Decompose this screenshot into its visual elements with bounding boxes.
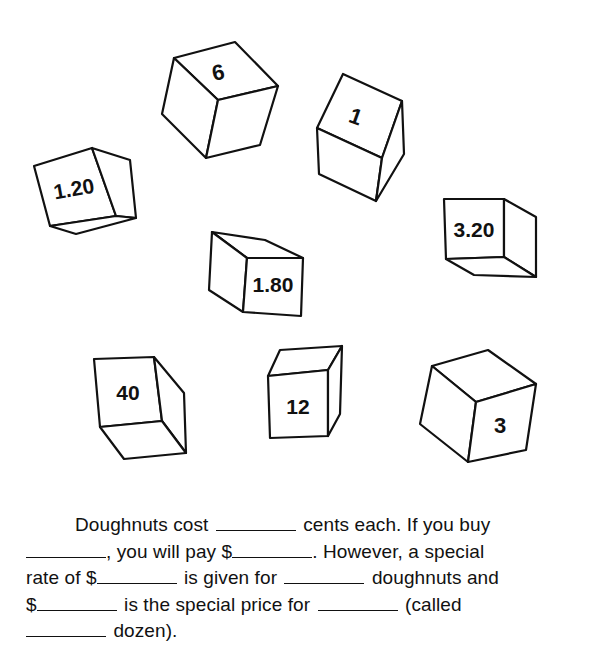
number-cube-1-80: 1.80 xyxy=(205,228,309,318)
text: $ xyxy=(26,594,37,615)
blank-price-each[interactable] xyxy=(216,512,296,531)
number-cube-40: 40 xyxy=(92,355,190,461)
paragraph-line-2: , you will pay $. However, a special xyxy=(26,539,566,566)
text: doughnuts and xyxy=(372,567,499,588)
number-cube-1-20: 1.20 xyxy=(30,146,142,238)
text: , you will pay $ xyxy=(106,541,232,562)
worksheet-paragraph: Doughnuts cost cents each. If you buy , … xyxy=(26,512,566,645)
number-cube-12: 12 xyxy=(266,344,348,442)
text: cents each. If you buy xyxy=(303,514,490,535)
cube-label: 3 xyxy=(494,413,506,438)
number-cube-3-20: 3.20 xyxy=(440,195,540,285)
text: dozen). xyxy=(113,620,177,641)
cube-label: 1.80 xyxy=(253,273,294,296)
cube-label: 3.20 xyxy=(454,218,495,241)
paragraph-line-3: rate of $ is given for doughnuts and xyxy=(26,565,566,592)
text: . However, a special xyxy=(312,541,484,562)
blank-total-pay[interactable] xyxy=(232,539,312,558)
text: (called xyxy=(405,594,462,615)
paragraph-line-4: $ is the special price for (called xyxy=(26,592,566,619)
blank-special-rate[interactable] xyxy=(97,565,177,584)
paragraph-line-5: dozen). xyxy=(26,618,566,645)
number-cube-6: 6 xyxy=(150,28,290,168)
text: Doughnuts cost xyxy=(75,514,208,535)
blank-special-price[interactable] xyxy=(37,592,117,611)
cube-label: 12 xyxy=(286,395,309,418)
blank-special-count[interactable] xyxy=(318,592,398,611)
number-cube-1: 1 xyxy=(312,68,412,208)
paragraph-line-1: Doughnuts cost cents each. If you buy xyxy=(26,512,566,539)
text: rate of $ xyxy=(26,567,97,588)
blank-quantity[interactable] xyxy=(26,539,106,558)
text: is the special price for xyxy=(124,594,310,615)
cube-illustration-area: 6 1 1.20 3.20 xyxy=(0,0,589,500)
cube-label: 40 xyxy=(116,381,139,404)
text: is given for xyxy=(184,567,277,588)
number-cube-3: 3 xyxy=(412,350,540,468)
blank-special-quantity[interactable] xyxy=(284,565,364,584)
blank-dozen-name[interactable] xyxy=(26,618,106,637)
